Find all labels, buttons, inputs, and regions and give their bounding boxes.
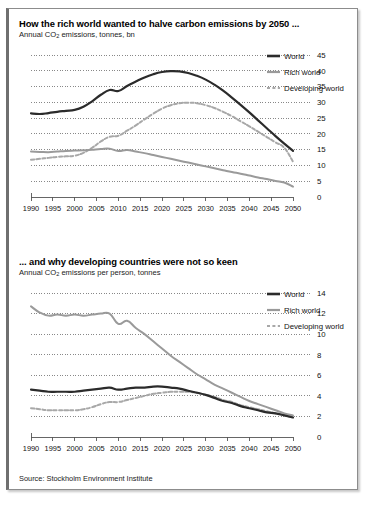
- chart1-subtitle: Annual CO2 emissions, tonnes, bn: [19, 30, 299, 41]
- chart-panel-top: How the rich world wanted to halve carbo…: [9, 9, 357, 245]
- chart1-title: How the rich world wanted to halve carbo…: [19, 18, 299, 29]
- chart2-plot: 0246810121419901995200020052010201520202…: [9, 279, 361, 475]
- x-tick-label-2005: 2005: [88, 204, 104, 213]
- y-tick-label-45: 45: [317, 51, 326, 60]
- series-line-rich-world: [31, 306, 293, 415]
- y-tick-label-10: 10: [317, 161, 326, 170]
- x-tick-label-2030: 2030: [197, 444, 213, 453]
- chart2-title: ... and why developing countries were no…: [19, 256, 238, 267]
- chart1-plot: 0510152025303540451990199520002005201020…: [9, 41, 361, 241]
- x-tick-label-2040: 2040: [241, 204, 257, 213]
- y-tick-label-20: 20: [317, 130, 326, 139]
- legend-label-developing-world: Developing world: [284, 322, 344, 331]
- x-tick-label-1990: 1990: [23, 444, 39, 453]
- y-tick-label-4: 4: [317, 392, 322, 401]
- x-tick-label-2000: 2000: [66, 444, 82, 453]
- chart-card-frame: How the rich world wanted to halve carbo…: [6, 8, 358, 490]
- y-tick-label-5: 5: [317, 177, 322, 186]
- x-tick-label-2020: 2020: [154, 204, 170, 213]
- y-tick-label-15: 15: [317, 145, 326, 154]
- y-tick-label-25: 25: [317, 114, 326, 123]
- source-note: Source: Stockholm Environment Institute: [19, 474, 153, 483]
- x-tick-label-2005: 2005: [88, 444, 104, 453]
- x-tick-label-2035: 2035: [219, 444, 235, 453]
- y-tick-label-0: 0: [317, 193, 322, 202]
- x-tick-label-2050: 2050: [285, 444, 301, 453]
- x-tick-label-1990: 1990: [23, 204, 39, 213]
- legend-label-world: World: [284, 52, 304, 61]
- legend-label-rich-world: Rich world: [284, 68, 320, 77]
- x-tick-label-2050: 2050: [285, 204, 301, 213]
- infographic-page: How the rich world wanted to halve carbo…: [0, 0, 371, 506]
- x-tick-label-2020: 2020: [154, 444, 170, 453]
- x-tick-label-2040: 2040: [241, 444, 257, 453]
- x-tick-label-2010: 2010: [110, 204, 126, 213]
- x-tick-label-2000: 2000: [66, 204, 82, 213]
- legend-label-world: World: [284, 290, 304, 299]
- x-tick-label-2035: 2035: [219, 204, 235, 213]
- legend-label-developing-world: Developing world: [284, 84, 344, 93]
- x-tick-label-2045: 2045: [263, 204, 279, 213]
- y-tick-label-2: 2: [317, 412, 321, 421]
- x-tick-label-2010: 2010: [110, 444, 126, 453]
- x-tick-label-1995: 1995: [45, 204, 61, 213]
- x-tick-label-2030: 2030: [197, 204, 213, 213]
- y-tick-label-10: 10: [317, 330, 326, 339]
- x-tick-label-1995: 1995: [45, 444, 61, 453]
- y-tick-label-6: 6: [317, 371, 321, 380]
- y-tick-label-8: 8: [317, 351, 321, 360]
- x-tick-label-2015: 2015: [132, 204, 148, 213]
- legend-label-rich-world: Rich world: [284, 306, 320, 315]
- chart2-subtitle: Annual CO2 emissions per person, tonnes: [19, 268, 238, 279]
- x-tick-label-2015: 2015: [132, 444, 148, 453]
- y-tick-label-0: 0: [317, 433, 322, 442]
- x-tick-label-2025: 2025: [176, 204, 192, 213]
- x-tick-label-2025: 2025: [176, 444, 192, 453]
- series-line-world: [31, 71, 293, 151]
- y-tick-label-30: 30: [317, 98, 326, 107]
- x-tick-label-2045: 2045: [263, 444, 279, 453]
- y-tick-label-14: 14: [317, 289, 326, 298]
- chart-panel-bottom: ... and why developing countries were no…: [9, 247, 357, 491]
